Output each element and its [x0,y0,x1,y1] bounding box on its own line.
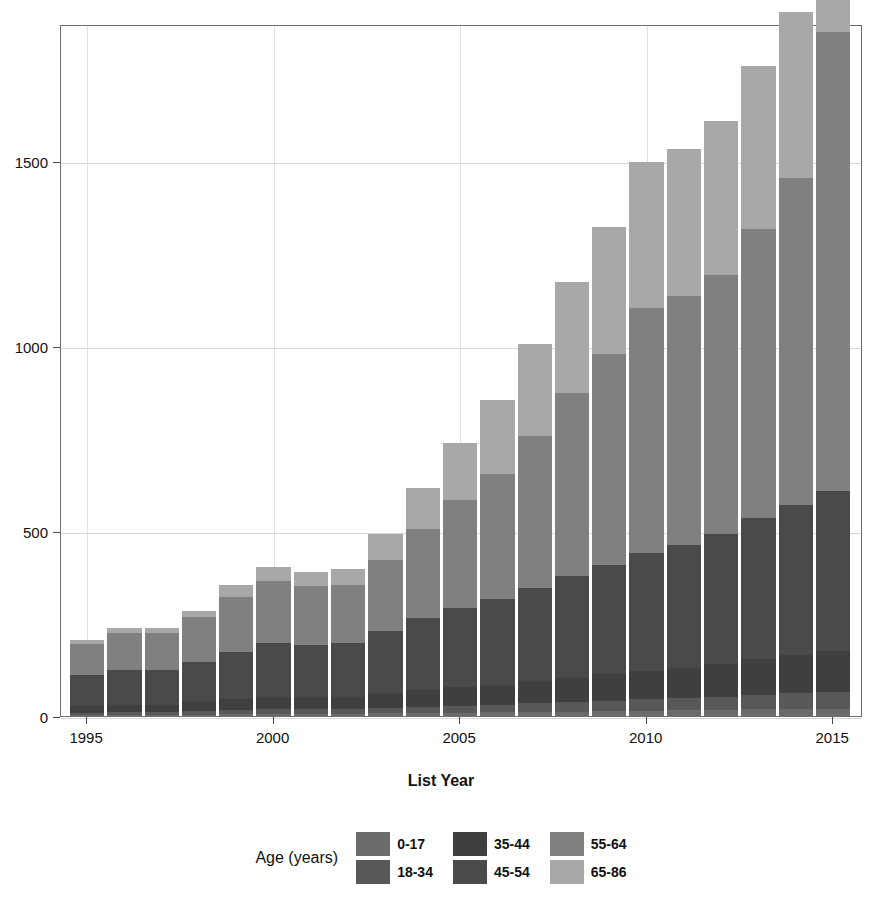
bar-segment-45-54 [816,491,850,651]
legend-swatch-icon [550,832,584,856]
x-tick-label: 2005 [442,729,475,746]
bar-segment-55-64 [704,275,738,534]
bar-segment-0-17 [182,715,216,716]
bar-segment-65-86 [779,12,813,179]
bar-1997 [145,628,179,716]
bar-segment-0-17 [592,711,626,716]
bar-segment-45-54 [667,545,701,668]
legend-label: 35-44 [494,836,530,852]
bar-2006 [480,400,514,716]
legend-label: 0-17 [397,836,425,852]
bar-segment-35-44 [443,687,477,706]
bar-segment-65-86 [741,66,775,229]
bar-segment-18-34 [741,695,775,710]
bar-segment-45-54 [555,576,589,678]
bar-segment-55-64 [667,296,701,545]
bar-segment-18-34 [779,693,813,709]
bar-segment-35-44 [518,681,552,703]
legend-swatch-icon [453,832,487,856]
bar-segment-55-64 [107,633,141,670]
bar-segment-55-64 [779,178,813,505]
bar-segment-55-64 [368,560,402,631]
bar-2010 [629,162,663,716]
bar-segment-0-17 [443,713,477,716]
bar-2014 [779,12,813,716]
bar-segment-0-17 [294,714,328,716]
gridline-horizontal [61,718,861,719]
bar-segment-55-64 [406,529,440,618]
bar-segment-55-64 [555,393,589,576]
bar-segment-45-54 [480,599,514,684]
bar-segment-55-64 [741,229,775,518]
bar-segment-18-34 [816,692,850,709]
bar-segment-35-44 [704,664,738,697]
legend-item-55-64: 55-64 [550,832,627,856]
y-tick-label: 1500 [15,153,48,170]
legend-title: Age (years) [255,849,338,867]
bar-segment-35-44 [406,690,440,707]
legend-item-65-86: 65-86 [550,860,627,884]
legend-item-18-34: 18-34 [356,860,433,884]
bar-segment-35-44 [145,705,179,712]
bar-segment-0-17 [741,709,775,716]
bar-segment-35-44 [555,678,589,702]
bar-segment-0-17 [518,712,552,716]
bar-segment-0-17 [219,714,253,716]
chart-legend: Age (years) 0-1718-3435-4445-5455-6465-8… [0,832,882,884]
bar-segment-65-86 [182,611,216,618]
legend-swatch-icon [356,860,390,884]
legend-swatch-icon [550,860,584,884]
x-axis-title: List Year [0,772,882,790]
bar-segment-45-54 [779,505,813,655]
bar-2001 [294,572,328,716]
bar-2013 [741,66,775,716]
bar-segment-55-64 [182,617,216,661]
bar-segment-35-44 [182,702,216,711]
bar-segment-35-44 [107,705,141,712]
bar-2011 [667,149,701,716]
bar-segment-0-17 [368,713,402,716]
bar-2000 [256,567,290,716]
y-tick-mark [53,717,60,718]
y-tick-mark [53,347,60,348]
bar-segment-45-54 [629,553,663,671]
bar-segment-18-34 [667,698,701,710]
bar-segment-0-17 [667,710,701,716]
bar-segment-45-54 [107,670,141,705]
bar-segment-65-86 [294,572,328,586]
bar-segment-55-64 [443,500,477,607]
bar-2002 [331,569,365,716]
bar-segment-65-86 [443,443,477,500]
bar-segment-18-34 [480,705,514,713]
bar-segment-35-44 [667,668,701,698]
bar-segment-55-64 [816,32,850,491]
bar-segment-55-64 [294,586,328,645]
bar-segment-18-34 [555,702,589,712]
bar-2005 [443,443,477,716]
bar-segment-45-54 [70,675,104,706]
bar-segment-55-64 [145,633,179,670]
bar-segment-35-44 [816,651,850,692]
bar-2012 [704,121,738,716]
bar-segment-0-17 [779,709,813,716]
bar-segment-0-17 [629,711,663,716]
y-tick-mark [53,162,60,163]
bar-segment-65-86 [704,121,738,275]
bar-segment-35-44 [368,693,402,707]
bar-segment-45-54 [145,670,179,705]
bar-segment-65-86 [331,569,365,585]
bar-segment-65-86 [555,282,589,393]
bar-segment-45-54 [182,662,216,703]
chart-canvas: 050010001500 19952000200520102015 List Y… [0,0,882,900]
bar-segment-65-86 [667,149,701,296]
bar-2007 [518,344,552,716]
bar-segment-55-64 [70,644,104,675]
bar-segment-55-64 [256,581,290,643]
bar-segment-65-86 [256,567,290,581]
bar-segment-55-64 [629,308,663,553]
bar-1999 [219,585,253,716]
legend-label: 45-54 [494,864,530,880]
bar-segment-45-54 [592,565,626,675]
bar-segment-0-17 [704,710,738,716]
bar-segment-35-44 [779,655,813,693]
